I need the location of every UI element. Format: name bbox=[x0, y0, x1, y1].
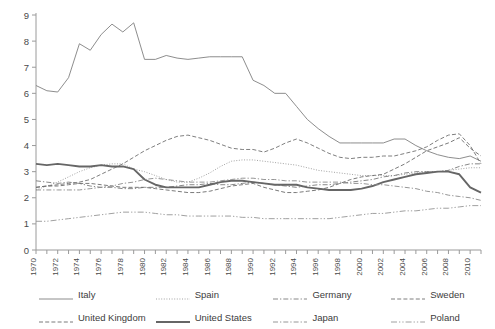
legend-label-united-kingdom: United Kingdom bbox=[78, 312, 146, 323]
x-tick-label: 1976 bbox=[94, 257, 103, 275]
x-tick-label: 2010 bbox=[463, 257, 472, 275]
legend-item-sweden[interactable]: Sweden bbox=[390, 289, 495, 300]
x-tick-label: 1994 bbox=[289, 257, 298, 275]
legend-item-united-kingdom[interactable]: United Kingdom bbox=[38, 312, 155, 323]
legend-swatch-japan bbox=[272, 313, 308, 323]
legend-item-spain[interactable]: Spain bbox=[155, 289, 273, 300]
legend-label-poland: Poland bbox=[430, 312, 460, 323]
x-tick-label: 1996 bbox=[311, 257, 320, 275]
legend-item-japan[interactable]: Japan bbox=[272, 312, 390, 323]
series-line-poland bbox=[36, 206, 481, 222]
x-tick-label: 1974 bbox=[72, 257, 81, 275]
x-tick-label: 2002 bbox=[376, 257, 385, 275]
y-tick-label: 5 bbox=[24, 114, 29, 125]
y-tick-label: 1 bbox=[24, 218, 29, 229]
line-chart: 0123456789197019721974197619781980198219… bbox=[0, 0, 495, 283]
x-tick-label: 1970 bbox=[29, 257, 38, 275]
series-line-united-states bbox=[36, 164, 481, 193]
y-tick-label: 7 bbox=[24, 62, 29, 73]
x-tick-label: 1982 bbox=[159, 257, 168, 275]
x-tick-label: 2000 bbox=[355, 257, 364, 275]
legend-row-2: United Kingdom United States Japan Polan… bbox=[0, 306, 495, 329]
y-tick-label: 2 bbox=[24, 192, 29, 203]
y-tick-label: 3 bbox=[24, 166, 29, 177]
x-tick-label: 1978 bbox=[116, 257, 125, 275]
series-line-japan bbox=[36, 178, 481, 200]
x-tick-label: 1986 bbox=[203, 257, 212, 275]
chart-root: 0123456789197019721974197619781980198219… bbox=[0, 0, 495, 329]
y-tick-label: 4 bbox=[24, 140, 29, 151]
legend-swatch-united-states bbox=[155, 313, 191, 323]
y-tick-label: 0 bbox=[24, 245, 29, 256]
legend-label-spain: Spain bbox=[195, 289, 219, 300]
legend-item-united-states[interactable]: United States bbox=[155, 312, 273, 323]
x-tick-label: 2004 bbox=[398, 257, 407, 275]
x-tick-label: 1992 bbox=[268, 257, 277, 275]
x-tick-label: 1972 bbox=[51, 257, 60, 275]
y-tick-label: 8 bbox=[24, 36, 29, 47]
legend-item-germany[interactable]: Germany bbox=[272, 289, 390, 300]
series-line-sweden bbox=[36, 134, 481, 188]
legend-swatch-spain bbox=[155, 290, 191, 300]
chart-legend: Italy Spain Germany Sweden United Kingdo… bbox=[0, 283, 495, 329]
x-tick-label: 1990 bbox=[246, 257, 255, 275]
x-tick-label: 1980 bbox=[138, 257, 147, 275]
legend-item-poland[interactable]: Poland bbox=[390, 312, 495, 323]
x-tick-label: 1984 bbox=[181, 257, 190, 275]
legend-label-germany: Germany bbox=[312, 289, 351, 300]
legend-label-united-states: United States bbox=[195, 312, 252, 323]
x-tick-label: 2006 bbox=[420, 257, 429, 275]
x-tick-label: 1988 bbox=[224, 257, 233, 275]
legend-swatch-germany bbox=[272, 290, 308, 300]
legend-item-italy[interactable]: Italy bbox=[38, 289, 155, 300]
legend-label-sweden: Sweden bbox=[430, 289, 464, 300]
legend-swatch-italy bbox=[38, 290, 74, 300]
legend-swatch-poland bbox=[390, 313, 426, 323]
legend-swatch-united-kingdom bbox=[38, 313, 74, 323]
legend-row-1: Italy Spain Germany Sweden bbox=[0, 283, 495, 306]
legend-label-italy: Italy bbox=[78, 289, 95, 300]
y-tick-label: 9 bbox=[24, 10, 29, 21]
legend-swatch-sweden bbox=[390, 290, 426, 300]
x-tick-label: 1998 bbox=[333, 257, 342, 275]
y-tick-label: 6 bbox=[24, 88, 29, 99]
legend-label-japan: Japan bbox=[312, 312, 338, 323]
series-line-italy bbox=[36, 23, 481, 161]
x-tick-label: 2008 bbox=[441, 257, 450, 275]
